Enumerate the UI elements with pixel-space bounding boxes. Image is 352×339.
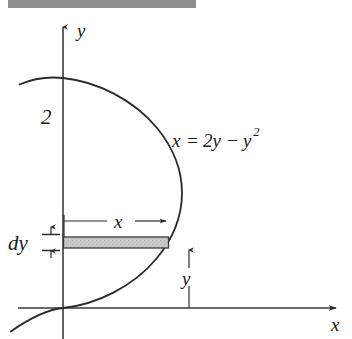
equation-term1: 2y: [203, 130, 222, 151]
equation-minus: −: [226, 130, 239, 151]
y-axis-label: y: [75, 20, 86, 41]
y-tick-label-2: 2: [41, 105, 52, 129]
equation-term2-exponent: 2: [253, 124, 260, 139]
parabola-curve: [11, 78, 182, 332]
equation-term2-base: y: [241, 130, 252, 151]
representative-strip-rect: [64, 237, 169, 248]
curve-equation-label: x = 2y − y 2: [171, 124, 260, 151]
strip-width-label: x: [113, 211, 123, 232]
equation-lhs: x: [171, 130, 181, 151]
diagram-canvas: y x 2 dy x y x = 2y − y 2: [0, 0, 352, 339]
figure-container: y x 2 dy x y x = 2y − y 2: [0, 0, 352, 339]
strip-height-label: y: [180, 268, 191, 289]
dy-label: dy: [8, 231, 29, 255]
x-axis-label: x: [330, 314, 340, 335]
equation-equals: =: [186, 130, 199, 151]
